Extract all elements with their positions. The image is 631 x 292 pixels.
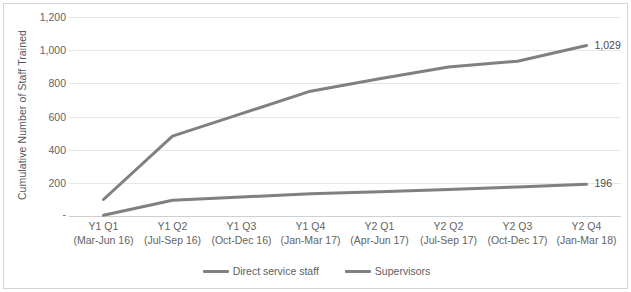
- legend-item-direct-service-staff[interactable]: Direct service staff: [203, 265, 319, 277]
- x-tick-line1: Y1 Q3: [227, 220, 257, 232]
- y-tick-label: 400: [22, 145, 66, 155]
- data-label-direct-service-staff: 1,029: [595, 40, 621, 51]
- series-line-supervisors: [104, 184, 587, 215]
- plot-area: 1,029 196: [69, 17, 621, 217]
- legend-label: Direct service staff: [233, 265, 319, 277]
- x-tick-label: Y2 Q4 (Jan-Mar 18): [542, 220, 631, 247]
- data-label-supervisors: 196: [595, 178, 613, 189]
- y-tick-label: 200: [22, 178, 66, 188]
- y-tick-label: 600: [22, 112, 66, 122]
- x-tick-line1: Y2 Q3: [503, 220, 533, 232]
- chart-legend: Direct service staff Supervisors: [4, 262, 629, 280]
- x-tick-line2: (Jan-Mar 18): [542, 234, 631, 248]
- y-tick-label: 800: [22, 78, 66, 88]
- y-tick-label: 1,200: [22, 12, 66, 22]
- y-tick-label: 1,000: [22, 45, 66, 55]
- y-tick-label: -: [22, 209, 66, 219]
- legend-label: Supervisors: [375, 265, 430, 277]
- x-tick-line1: Y2 Q2: [434, 220, 464, 232]
- x-tick-line1: Y1 Q4: [296, 220, 326, 232]
- legend-item-supervisors[interactable]: Supervisors: [345, 265, 430, 277]
- x-axis-tick-labels: Y1 Q1 (Mar-Jun 16) Y1 Q2 (Jul-Sep 16) Y1…: [69, 220, 621, 256]
- x-tick-line1: Y1 Q2: [158, 220, 188, 232]
- x-tick-line1: Y1 Q1: [89, 220, 119, 232]
- series-line-direct-service-staff: [104, 46, 587, 200]
- y-axis-tick-labels: 1,200 1,000 800 600 400 200 -: [18, 17, 66, 217]
- series-plot: [69, 17, 621, 217]
- chart-container: Cumulative Number of Staff Trained 1,200…: [3, 3, 628, 289]
- legend-line-swatch-icon: [203, 270, 229, 273]
- x-tick-line1: Y2 Q4: [572, 220, 602, 232]
- legend-line-swatch-icon: [345, 270, 371, 273]
- x-tick-line1: Y2 Q1: [365, 220, 395, 232]
